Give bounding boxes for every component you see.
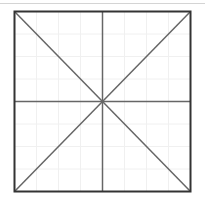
diagram-canvas — [0, 0, 205, 201]
square-grid-figure — [0, 0, 205, 201]
